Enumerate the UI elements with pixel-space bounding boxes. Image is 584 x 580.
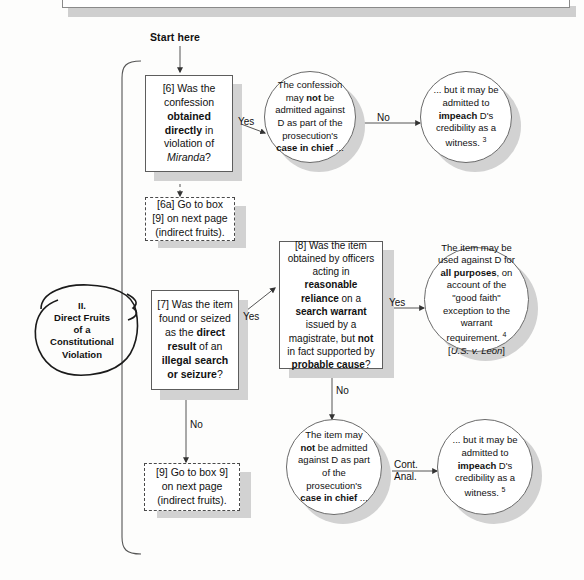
node-box-6-text: [6] Was the confession obtained directly…	[151, 82, 227, 166]
node-circle-impeach-confession[interactable]: ... but it may be admitted to impeach D'…	[420, 71, 512, 163]
annotation-numeral: II.	[30, 300, 134, 312]
annotation-line-3: Constitutional	[30, 336, 134, 348]
annotation-line-1: Direct Fruits	[30, 312, 134, 324]
edge-label-cont-anal: Cont. Anal.	[394, 459, 428, 482]
node-circle-impeach-confession-text: ... but it may be admitted to impeach D'…	[433, 84, 499, 149]
edge-label-cont-anal-line1: Cont.	[394, 459, 418, 470]
edge-label-box6-yes: Yes	[238, 116, 254, 128]
edge-label-box8-yes: Yes	[389, 297, 405, 309]
edge-label-confession-no: No	[377, 112, 390, 124]
node-box-8-text: [8] Was the item obtained by officers ac…	[285, 239, 377, 372]
page-canvas: Start here II. Direct Fruits of a Consti…	[0, 0, 584, 580]
start-here-label: Start here	[150, 31, 200, 43]
node-box-9-text: [9] Go to box 9] on next page (indirect …	[150, 466, 234, 508]
section-annotation-label: II. Direct Fruits of a Constitutional Vi…	[30, 300, 134, 361]
node-circle-item-excluded-text: The item may not be admitted against D a…	[298, 429, 370, 505]
node-box-6a[interactable]: [6a] Go to box [9] on next page (indirec…	[145, 197, 235, 241]
node-box-6[interactable]: [6] Was the confession obtained directly…	[145, 75, 233, 172]
top-banner	[62, 0, 570, 8]
node-box-8[interactable]: [8] Was the item obtained by officers ac…	[279, 241, 383, 369]
node-circle-confession-excluded-text: The confession may not be admitted again…	[275, 79, 345, 155]
node-box-7[interactable]: [7] Was the item found or seized as the …	[151, 290, 239, 390]
node-circle-impeach-item[interactable]: ... but it may be admitted to impeach D'…	[437, 419, 533, 515]
edge-label-cont-anal-line2: Anal.	[394, 471, 417, 482]
node-circle-item-excluded[interactable]: The item may not be admitted against D a…	[286, 419, 382, 515]
node-circle-confession-excluded[interactable]: The confession may not be admitted again…	[264, 71, 356, 163]
edge-label-box8-no: No	[336, 385, 349, 397]
annotation-line-2: of a	[30, 324, 134, 336]
edge-label-box7-yes: Yes	[243, 311, 259, 323]
node-box-6a-text: [6a] Go to box [9] on next page (indirec…	[151, 198, 229, 240]
node-circle-leon-good-faith[interactable]: The item may be used against D for all p…	[424, 247, 529, 352]
node-box-9[interactable]: [9] Go to box 9] on next page (indirect …	[144, 463, 240, 511]
node-circle-leon-good-faith-text: The item may be used against D for all p…	[436, 242, 517, 358]
node-circle-impeach-item-text: ... but it may be admitted to impeach D'…	[451, 434, 519, 499]
node-box-7-text: [7] Was the item found or seized as the …	[157, 298, 233, 382]
edge-label-box7-no: No	[190, 419, 203, 431]
annotation-line-4: Violation	[30, 349, 134, 361]
